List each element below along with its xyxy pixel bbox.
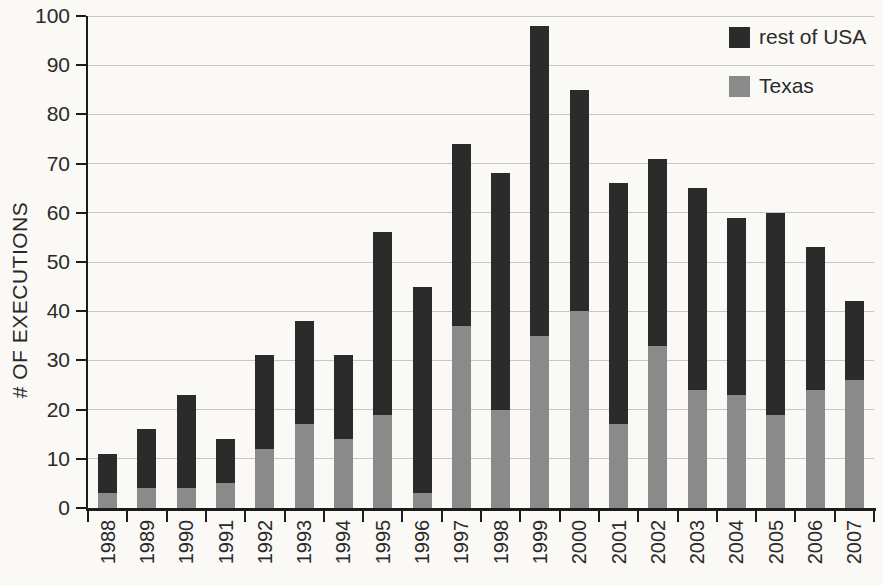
x-tick-label-2005: 2005 <box>765 512 787 572</box>
gridline-10 <box>88 458 874 459</box>
bar-segment-texas-2005 <box>766 415 785 508</box>
bar-2007 <box>845 301 864 508</box>
bar-1994 <box>334 355 353 508</box>
y-tick-10 <box>76 458 86 460</box>
x-tick-3 <box>205 511 207 522</box>
x-tick-label-1996: 1996 <box>411 512 433 572</box>
x-tick-1 <box>126 511 128 522</box>
bar-segment-texas-2000 <box>570 311 589 508</box>
legend-swatch-rest-of-usa <box>729 27 750 48</box>
bar-segment-rest-of-usa-2000 <box>570 90 589 311</box>
bar-segment-rest-of-usa-1990 <box>177 395 196 488</box>
bar-segment-texas-1991 <box>216 483 235 508</box>
y-tick-label-0: 0 <box>10 497 70 519</box>
chart-canvas: # OF EXECUTIONS 010203040506070809010019… <box>0 0 883 585</box>
bar-segment-texas-2003 <box>688 390 707 508</box>
x-tick-20 <box>873 511 875 522</box>
x-tick-12 <box>559 511 561 522</box>
bar-segment-rest-of-usa-1996 <box>413 287 432 494</box>
bar-segment-texas-1992 <box>255 449 274 508</box>
x-tick-0 <box>87 511 89 522</box>
y-tick-label-90: 90 <box>10 54 70 76</box>
x-tick-label-1993: 1993 <box>293 512 315 572</box>
bar-1993 <box>295 321 314 508</box>
x-tick-10 <box>480 511 482 522</box>
bar-segment-rest-of-usa-2001 <box>609 183 628 424</box>
bar-segment-rest-of-usa-1997 <box>452 144 471 326</box>
y-tick-label-10: 10 <box>10 448 70 470</box>
bar-1997 <box>452 144 471 508</box>
gridline-90 <box>88 65 874 66</box>
gridline-70 <box>88 163 874 164</box>
gridline-100 <box>88 16 874 17</box>
x-tick-9 <box>441 511 443 522</box>
bar-1995 <box>373 232 392 508</box>
y-tick-label-70: 70 <box>10 153 70 175</box>
bar-segment-rest-of-usa-1988 <box>98 454 117 493</box>
x-tick-label-2006: 2006 <box>804 512 826 572</box>
bar-1991 <box>216 439 235 508</box>
x-tick-4 <box>244 511 246 522</box>
bar-segment-texas-1996 <box>413 493 432 508</box>
y-tick-label-100: 100 <box>10 5 70 27</box>
x-tick-15 <box>677 511 679 522</box>
y-tick-30 <box>76 359 86 361</box>
x-tick-label-1994: 1994 <box>332 512 354 572</box>
bar-2004 <box>727 218 746 508</box>
bar-segment-texas-2001 <box>609 424 628 508</box>
x-tick-11 <box>519 511 521 522</box>
x-tick-label-1990: 1990 <box>175 512 197 572</box>
bar-1992 <box>255 355 274 508</box>
bar-segment-rest-of-usa-2005 <box>766 213 785 415</box>
bar-segment-texas-1988 <box>98 493 117 508</box>
bar-segment-texas-2004 <box>727 395 746 508</box>
bar-segment-texas-2006 <box>806 390 825 508</box>
x-tick-label-2003: 2003 <box>686 512 708 572</box>
x-tick-label-2002: 2002 <box>647 512 669 572</box>
bar-segment-rest-of-usa-2004 <box>727 218 746 395</box>
bar-2001 <box>609 183 628 508</box>
y-tick-label-60: 60 <box>10 202 70 224</box>
y-tick-label-80: 80 <box>10 103 70 125</box>
bar-segment-rest-of-usa-1999 <box>530 26 549 336</box>
bar-1990 <box>177 395 196 508</box>
bar-segment-texas-2007 <box>845 380 864 508</box>
y-axis-line <box>86 16 88 510</box>
x-tick-2 <box>166 511 168 522</box>
x-tick-label-2001: 2001 <box>608 512 630 572</box>
x-tick-16 <box>716 511 718 522</box>
y-tick-label-20: 20 <box>10 399 70 421</box>
y-tick-70 <box>76 163 86 165</box>
bar-2000 <box>570 90 589 508</box>
x-tick-13 <box>598 511 600 522</box>
legend-item-texas: Texas <box>729 74 814 98</box>
bar-segment-rest-of-usa-1993 <box>295 321 314 424</box>
legend-label-rest-of-usa: rest of USA <box>759 25 866 49</box>
bar-segment-texas-1994 <box>334 439 353 508</box>
gridline-30 <box>88 360 874 361</box>
bar-segment-rest-of-usa-1994 <box>334 355 353 439</box>
bar-segment-rest-of-usa-2003 <box>688 188 707 390</box>
y-tick-80 <box>76 113 86 115</box>
bar-segment-rest-of-usa-1992 <box>255 355 274 448</box>
x-tick-label-1989: 1989 <box>136 512 158 572</box>
y-tick-50 <box>76 261 86 263</box>
x-tick-label-1999: 1999 <box>529 512 551 572</box>
gridline-20 <box>88 409 874 410</box>
y-tick-label-50: 50 <box>10 251 70 273</box>
x-tick-6 <box>323 511 325 522</box>
bar-segment-texas-1998 <box>491 410 510 508</box>
y-tick-90 <box>76 64 86 66</box>
x-tick-8 <box>401 511 403 522</box>
y-tick-0 <box>76 507 86 509</box>
bar-2005 <box>766 213 785 508</box>
bar-segment-rest-of-usa-1991 <box>216 439 235 483</box>
x-tick-label-1995: 1995 <box>372 512 394 572</box>
x-tick-18 <box>794 511 796 522</box>
y-tick-60 <box>76 212 86 214</box>
bar-segment-texas-1989 <box>137 488 156 508</box>
x-tick-label-2007: 2007 <box>843 512 865 572</box>
x-tick-7 <box>362 511 364 522</box>
bar-2003 <box>688 188 707 508</box>
bar-1999 <box>530 26 549 508</box>
